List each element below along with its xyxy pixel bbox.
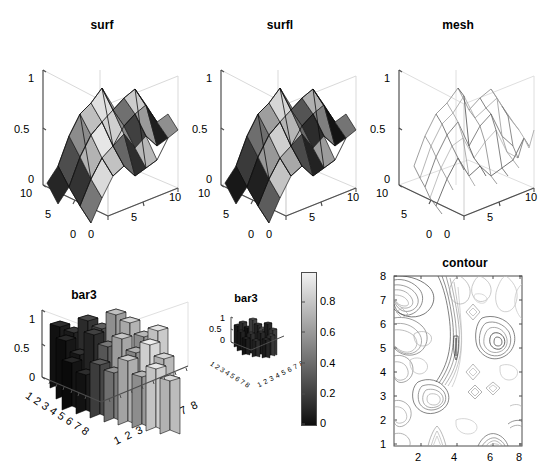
- surfl-plot-area: [190, 18, 370, 233]
- colorbar-tick-0: 0: [320, 418, 326, 429]
- colorbar-tick-06: 0.6: [320, 327, 335, 338]
- panel-surf[interactable]: surf 1 0.5 0 10 5 0 0 5 10: [12, 18, 192, 233]
- colorbar[interactable]: 0.8 0.6 0.4 0.2 0: [296, 266, 356, 436]
- panel-mesh[interactable]: mesh 1 0.5 0 10 5 0 0 5 10: [368, 18, 548, 233]
- colorbar-tick-04: 0.4: [320, 358, 335, 369]
- mesh-plot-area: [368, 18, 548, 233]
- surf-plot-area: [12, 18, 192, 233]
- panel-bar3-small[interactable]: bar3 1 0.5 0 1 2 3 4 5 6 7 8 1 2 3 4 5 6…: [196, 292, 306, 402]
- bar3-small-plot-area: [196, 292, 306, 402]
- panel-bar3-large[interactable]: bar3 1 0.5 0 1 2 3 4 5 6 7 8 1 2 3 4 5 6…: [6, 262, 206, 462]
- colorbar-tick-08: 0.8: [320, 296, 335, 307]
- contour-plot-area: [370, 256, 549, 468]
- matlab-figure: surf 1 0.5 0 10 5 0 0 5 10: [0, 0, 549, 473]
- colorbar-ticks: [296, 266, 356, 436]
- bar3-large-plot-area: [6, 262, 206, 462]
- panel-surfl[interactable]: surfl 1 0.5 0 10 5 0 0 5 10: [190, 18, 370, 233]
- panel-contour[interactable]: contour 8 7 6 5 4 3 2 1 2 4 6 8: [370, 256, 549, 468]
- colorbar-tick-02: 0.2: [320, 388, 335, 399]
